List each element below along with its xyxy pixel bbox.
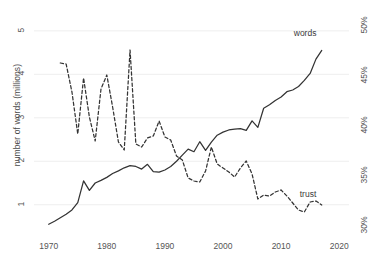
y-tick-label: 3 <box>16 106 26 128</box>
secondary-y-tick-label: 35% <box>359 162 369 188</box>
x-tick-label: 1970 <box>32 241 66 251</box>
trust-series-label: trust <box>300 189 317 199</box>
x-tick-label: 2000 <box>206 241 240 251</box>
series-line-words <box>49 50 322 224</box>
x-tick-label: 2020 <box>322 241 356 251</box>
secondary-y-tick-label: 30% <box>359 212 369 238</box>
x-tick-label: 2010 <box>264 241 298 251</box>
y-tick-label: 1 <box>16 193 26 215</box>
x-tick-label: 1990 <box>148 241 182 251</box>
secondary-y-tick-label: 50% <box>359 12 369 38</box>
x-tick-label: 1980 <box>90 241 124 251</box>
y-tick-label: 2 <box>16 149 26 171</box>
secondary-y-tick-label: 40% <box>359 112 369 138</box>
chart-container: number of words (millions) proportion wh… <box>0 0 387 257</box>
words-series-label: words <box>294 28 317 38</box>
y-tick-label: 4 <box>16 62 26 84</box>
secondary-y-tick-label: 45% <box>359 62 369 88</box>
y-tick-label: 5 <box>16 19 26 41</box>
plot-area <box>0 0 387 257</box>
